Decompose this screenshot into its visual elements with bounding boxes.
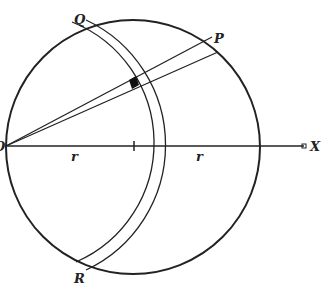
- shell-inner-arc: [72, 22, 154, 262]
- label-X: X: [309, 139, 321, 154]
- main-sphere-circle: [6, 20, 260, 274]
- sphere-shell-diagram: O P Q R X r r: [0, 0, 326, 289]
- label-P: P: [213, 31, 225, 46]
- label-O: O: [0, 139, 6, 154]
- ray-lower: [6, 52, 218, 146]
- ray-upper: [6, 37, 212, 146]
- label-r-left: r: [71, 149, 79, 164]
- label-Q: Q: [74, 12, 86, 27]
- label-r-right: r: [196, 149, 204, 164]
- label-R: R: [73, 271, 85, 286]
